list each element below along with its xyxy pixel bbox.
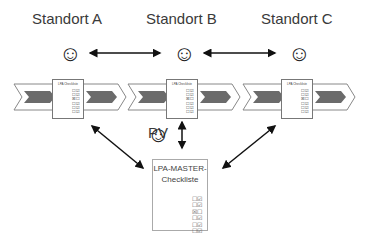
checklist-title-c: LPA Checkliste bbox=[282, 80, 312, 86]
master-checklist-boxes: ☐☑☐☑☒☐ ☐☑☐☑☐☑ bbox=[192, 196, 202, 234]
checklist-doc-b: LPA Checkliste ☐☑☐☑☒☐ ☐☑☐☑☐☑ bbox=[166, 79, 198, 119]
arrow-a-master bbox=[92, 126, 143, 168]
smiley-icon-pv: ☺ bbox=[147, 124, 169, 146]
checklist-boxes-b: ☐☑☐☑☒☐ ☐☑☐☑☐☑ bbox=[186, 89, 194, 114]
checklist-boxes-a: ☐☑☐☑☒☐ ☐☑☐☑☐☑ bbox=[72, 89, 80, 114]
arrow-c-master bbox=[223, 126, 275, 168]
master-checklist-title: LPA-MASTER- Checkliste bbox=[153, 160, 207, 185]
checklist-doc-a: LPA Checkliste ☐☑☐☑☒☐ ☐☑☐☑☐☑ bbox=[52, 79, 84, 119]
checklist-title-b: LPA Checkliste bbox=[167, 80, 197, 86]
checklist-doc-c: LPA Checkliste ☐☑☐☑☒☐ ☐☑☐☑☐☑ bbox=[281, 79, 313, 119]
checklist-boxes-c: ☐☑☐☑☒☐ ☐☑☐☑☐☑ bbox=[301, 89, 309, 114]
checklist-title-a: LPA Checkliste bbox=[53, 80, 83, 86]
master-checklist-doc: LPA-MASTER- Checkliste ☐☑☐☑☒☐ ☐☑☐☑☐☑ bbox=[152, 159, 208, 231]
